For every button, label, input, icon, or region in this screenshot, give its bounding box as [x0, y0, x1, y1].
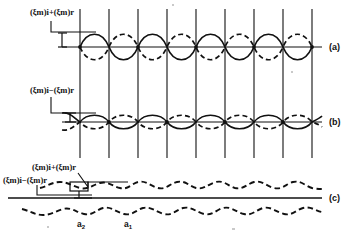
- axis-label-a1: a1: [124, 219, 132, 230]
- panel-label-a: (a): [329, 42, 340, 52]
- standing-wave-figure: [0, 0, 350, 235]
- panel-c-lower-dashed-curve: [22, 208, 322, 215]
- vertical-gridlines: [80, 9, 312, 158]
- panel-c-upper-leader-line: [78, 173, 128, 187]
- panel-a-leader-line: [51, 21, 96, 32]
- panel-a-amplitude-bracket: [58, 33, 67, 47]
- panel-c: [8, 173, 322, 215]
- panel-c-lower-amplitude-label: (ξm)i−(ξm)r: [3, 176, 47, 185]
- scan-artifacts: [47, 4, 293, 230]
- panel-b-amplitude-label: (ξm)i−(ξm)r: [30, 86, 74, 95]
- axis-label-a2: a2: [77, 219, 85, 230]
- panel-a: [51, 21, 322, 60]
- panel-a-amplitude-label: (ξm)i+(ξm)r: [30, 8, 74, 17]
- panel-c-upper-amplitude-label: (ξm)i+(ξm)r: [32, 163, 76, 172]
- panel-c-upper-dashed-curve: [40, 182, 322, 189]
- panel-b: [51, 97, 322, 130]
- panel-label-c: (c): [329, 193, 340, 203]
- panel-label-b: (b): [329, 117, 341, 127]
- panel-b-leader-line: [51, 97, 96, 113]
